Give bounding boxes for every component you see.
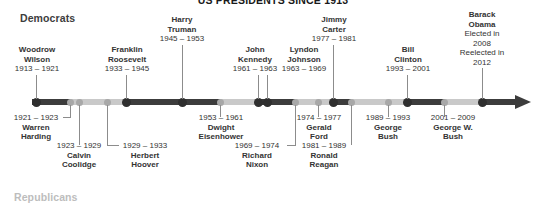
label-carter-name2: Carter [301,25,367,35]
label-clinton-name1: Bill [375,45,441,55]
label-harding: 1921 – 1923 Warren Harding [8,113,64,142]
label-obama-elected-year: 2008 [449,39,515,49]
segment-eisenhower [220,99,258,105]
label-nixon-name1: Richard [229,151,285,161]
label-obama-name2: Obama [449,20,515,30]
label-bush-41-name1: George [360,123,416,133]
label-reagan-name1: Ronald [296,151,352,161]
label-ford-years: 1974 – 1977 [291,113,347,123]
label-ford-name1: Gerald [291,123,347,133]
label-harding-years: 1921 – 1923 [8,113,64,123]
label-wilson-name1: Woodrow [6,45,68,55]
label-carter-years: 1977 – 1981 [301,34,367,44]
label-coolidge-name1: Calvin [51,151,107,161]
label-obama-reelected-year: 2012 [449,58,515,68]
leader-hoover-v [107,105,108,145]
label-johnson-years: 1963 – 1969 [271,64,337,74]
label-nixon-years: 1969 – 1974 [229,141,285,151]
label-obama: Barack Obama Elected in 2008 Reelected i… [449,10,515,68]
label-harding-name1: Warren [8,123,64,133]
label-eisenhower: 1953 – 1961 Dwight Eisenhower [190,113,252,142]
label-truman-name1: Harry [150,15,214,25]
label-reagan-years: 1981 – 1989 [296,141,352,151]
label-bush-43-name1: George W. [423,123,483,133]
label-ford: 1974 – 1977 Gerald Ford [291,113,347,142]
leader-truman [182,45,183,99]
label-johnson-name1: Lyndon [271,45,337,55]
label-hoover-name2: Hoover [117,160,173,170]
label-johnson: Lyndon Johnson 1963 – 1969 [271,45,337,74]
label-roosevelt-name1: Franklin [94,45,160,55]
label-reagan: 1981 – 1989 Ronald Reagan [296,141,352,170]
legend-democrats: Democrats [20,12,75,24]
segment-reagan [351,99,388,105]
label-clinton-years: 1993 – 2001 [375,64,441,74]
label-carter-name1: Jimmy [301,15,367,25]
leader-clinton [407,75,408,99]
label-truman-name2: Truman [150,25,214,35]
label-eisenhower-name1: Dwight [190,123,252,133]
leader-coolidge-v [79,105,80,145]
label-roosevelt-years: 1933 – 1945 [94,64,160,74]
label-wilson: Woodrow Wilson 1913 – 1921 [6,45,68,74]
label-bush-41: 1989 – 1993 George Bush [360,113,416,142]
leader-harding-v [70,105,71,117]
label-coolidge: 1923 – 1929 Calvin Coolidge [51,141,107,170]
label-reagan-name2: Reagan [296,160,352,170]
leader-wilson [36,75,37,99]
label-clinton-name2: Clinton [375,55,441,65]
label-nixon-name2: Nixon [229,160,285,170]
leader-nixon-h [287,145,296,146]
leader-roosevelt [126,75,127,99]
label-hoover: 1929 – 1933 Herbert Hoover [117,141,173,170]
page-title: US PRESIDENTS SINCE 1913 [0,0,546,6]
label-truman-years: 1945 – 1953 [150,34,214,44]
leader-kennedy [258,75,259,99]
segment-coolidge [79,99,107,105]
label-carter: Jimmy Carter 1977 – 1981 [301,15,367,44]
timeline-infographic: US PRESIDENTS SINCE 1913 Democrats Repub… [0,0,546,214]
label-bush-43: 2001 – 2009 George W. Bush [423,113,483,142]
label-coolidge-name2: Coolidge [51,160,107,170]
leader-obama [482,68,483,99]
leader-johnson [267,75,268,99]
segment-obama [482,99,516,105]
segment-roosevelt [126,99,182,105]
segment-bush-43 [445,99,482,105]
label-clinton: Bill Clinton 1993 – 2001 [375,45,441,74]
label-hoover-years: 1929 – 1933 [117,141,173,151]
label-bush-43-years: 2001 – 2009 [423,113,483,123]
segment-clinton [407,99,445,105]
label-hoover-name1: Herbert [117,151,173,161]
label-obama-reelected: Reelected in [449,48,515,58]
label-bush-43-name2: Bush [423,132,483,142]
label-wilson-years: 1913 – 1921 [6,64,68,74]
label-bush-41-name2: Bush [360,132,416,142]
segment-truman [182,99,220,105]
label-roosevelt: Franklin Roosevelt 1933 – 1945 [94,45,160,74]
leader-harding-h [63,117,71,118]
label-bush-41-years: 1989 – 1993 [360,113,416,123]
leader-reagan [351,105,352,145]
label-obama-name1: Barack [449,10,515,20]
label-eisenhower-years: 1953 – 1961 [190,113,252,123]
timeline-arrow-icon [515,95,531,109]
label-wilson-name2: Wilson [6,55,68,65]
legend-republicans: Republicans [14,191,78,203]
label-coolidge-years: 1923 – 1929 [51,141,107,151]
label-obama-elected: Elected in [449,29,515,39]
label-johnson-name2: Johnson [271,55,337,65]
label-roosevelt-name2: Roosevelt [94,55,160,65]
label-truman: Harry Truman 1945 – 1953 [150,15,214,44]
label-nixon: 1969 – 1974 Richard Nixon [229,141,285,170]
